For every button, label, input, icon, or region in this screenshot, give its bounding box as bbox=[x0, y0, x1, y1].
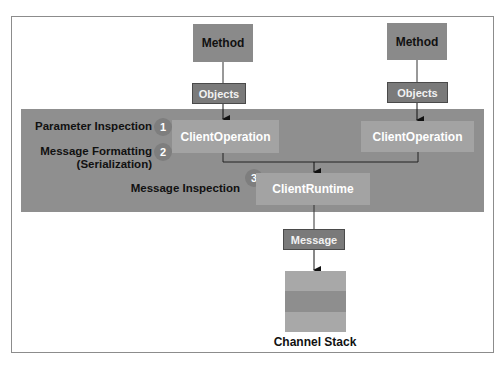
method-label-right: Method bbox=[396, 35, 439, 49]
message-label: Message bbox=[291, 234, 337, 246]
client-operation-box-left: ClientOperation bbox=[172, 120, 279, 153]
client-operation-label-left: ClientOperation bbox=[180, 130, 270, 144]
step-1-label: Parameter Inspection bbox=[35, 120, 152, 133]
method-box-left: Method bbox=[193, 24, 253, 62]
channel-stack-layer-3 bbox=[285, 312, 346, 332]
method-label-left: Method bbox=[202, 36, 245, 50]
channel-stack bbox=[285, 271, 346, 332]
step-3-label: Message Inspection bbox=[131, 182, 240, 195]
step-2-badge: 2 bbox=[154, 143, 172, 161]
client-operation-label-right: ClientOperation bbox=[372, 130, 462, 144]
method-box-right: Method bbox=[387, 23, 447, 60]
objects-label-left: Objects bbox=[199, 88, 239, 100]
channel-stack-layer-1 bbox=[285, 271, 346, 291]
client-runtime-box: ClientRuntime bbox=[256, 173, 370, 205]
objects-box-left: Objects bbox=[192, 83, 246, 104]
step-1-badge: 1 bbox=[154, 118, 172, 136]
objects-box-right: Objects bbox=[387, 82, 448, 103]
step-2-label: Message Formatting (Serialization) bbox=[40, 145, 152, 171]
client-operation-box-right: ClientOperation bbox=[361, 121, 474, 152]
step-2-subtitle: (Serialization) bbox=[40, 158, 152, 171]
channel-stack-layer-2 bbox=[285, 291, 346, 311]
channel-stack-label: Channel Stack bbox=[265, 335, 365, 349]
message-box: Message bbox=[283, 229, 345, 250]
client-runtime-label: ClientRuntime bbox=[272, 182, 353, 196]
step-2-title: Message Formatting bbox=[40, 145, 152, 158]
objects-label-right: Objects bbox=[397, 87, 437, 99]
